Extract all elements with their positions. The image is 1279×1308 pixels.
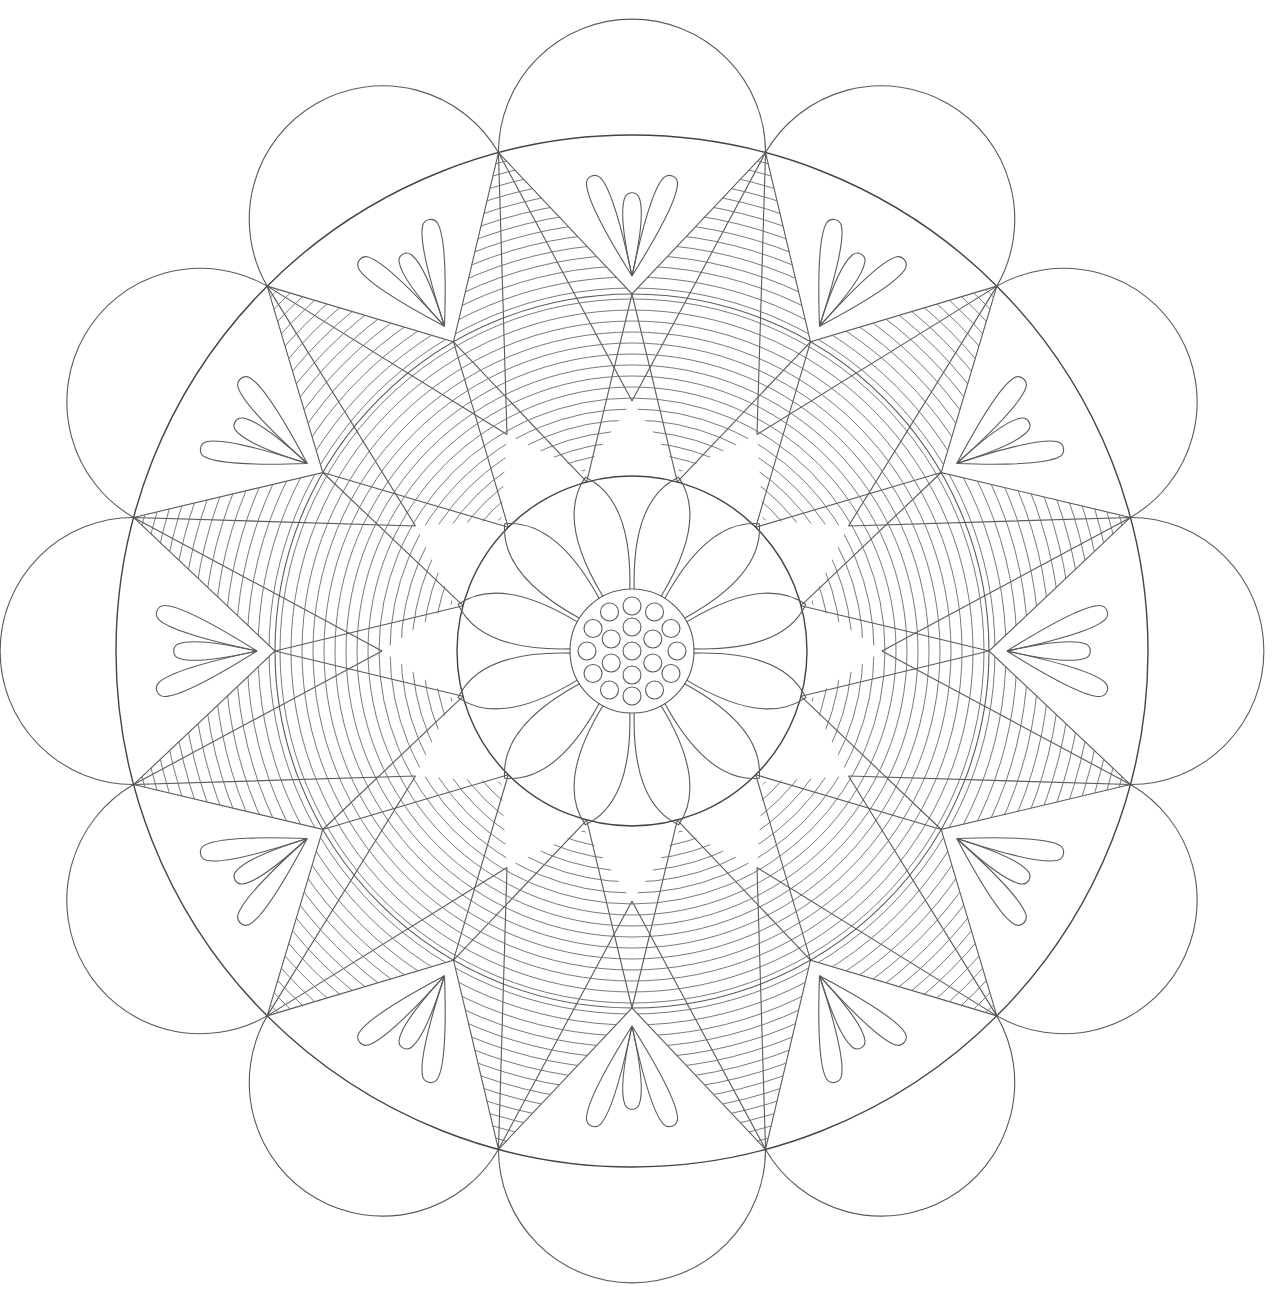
hatch-arc (291, 310, 973, 992)
hatch-arc (159, 178, 1105, 1124)
teardrop-left (819, 219, 842, 326)
hatch-arc (236, 255, 1028, 1047)
hatch-arc (225, 244, 1039, 1058)
hatch-arc (412, 431, 852, 871)
hatch-arc (434, 453, 830, 849)
hatch-arc (412, 431, 852, 871)
teardrop-right (238, 377, 308, 464)
hatch-arc (148, 167, 1116, 1135)
flower-seed-dot (623, 642, 641, 660)
hatch-arc (137, 156, 1127, 1146)
hatch-arc (346, 365, 918, 937)
hatch-arc (412, 431, 852, 871)
hatch-arc (258, 277, 1006, 1025)
hatch-arc (269, 288, 995, 1014)
hatch-arc (137, 156, 1127, 1146)
hatch-arc (324, 343, 940, 959)
hatch-arc (357, 376, 907, 926)
teardrop-center (820, 253, 865, 326)
hatch-arc (324, 343, 940, 959)
hatch-arc (434, 453, 830, 849)
teardrop-center (174, 642, 257, 661)
teardrop-left (422, 976, 445, 1083)
flower-seed-dot (646, 681, 664, 699)
hatch-arc (291, 310, 973, 992)
hatch-arc (324, 343, 940, 959)
hatch-arc (159, 178, 1105, 1124)
hatch-arc (445, 464, 819, 838)
flower-petal (687, 593, 806, 649)
hatch-arc (280, 299, 984, 1003)
outer-triangle (267, 960, 498, 1149)
flower-seed-dot (602, 654, 620, 672)
hatch-arc (335, 354, 929, 948)
hatch-arc (445, 464, 819, 838)
hatch-arc (401, 420, 863, 882)
hatch-arc (203, 222, 1061, 1080)
scallop-arc (67, 785, 267, 1034)
hatch-arc (225, 244, 1039, 1058)
hatch-arc (401, 420, 863, 882)
hatch-arc (368, 387, 896, 915)
hatch-arc (258, 277, 1006, 1025)
hatch-arc (423, 442, 841, 860)
hatch-arc (203, 222, 1061, 1080)
hatch-arc (346, 365, 918, 937)
hatch-arc (434, 453, 830, 849)
scallop-arc (67, 268, 267, 517)
hatch-arc (269, 288, 995, 1014)
hatch-arc (203, 222, 1061, 1080)
scallop-arc (1130, 517, 1263, 784)
scallop-arc (997, 785, 1197, 1034)
hatch-arc (170, 189, 1094, 1113)
hatch-arc (324, 343, 940, 959)
hatch-arc (423, 442, 841, 860)
hatch-arc (225, 244, 1039, 1058)
teardrop-center (820, 976, 865, 1049)
hatch-arc (126, 145, 1138, 1157)
hatch-arc (379, 398, 885, 904)
hatch-arc (269, 288, 995, 1014)
teardrop-left (238, 839, 308, 926)
hatch-arc (225, 244, 1039, 1058)
hatch-arc (170, 189, 1094, 1113)
hatch-arc (401, 420, 863, 882)
hatch-arc (170, 189, 1094, 1113)
flower-petal (458, 653, 577, 709)
hatch-arc (170, 189, 1094, 1113)
hatch-arc (181, 200, 1083, 1102)
star-ray (849, 517, 1131, 651)
hatch-arc (181, 200, 1083, 1102)
teardrop-center (957, 839, 1030, 884)
hatch-arc (346, 365, 918, 937)
flower-petal (665, 523, 760, 618)
hatch-arc (313, 332, 951, 970)
hatch-arc (324, 343, 940, 959)
hatch-arc (203, 222, 1061, 1080)
hatch-arc (379, 398, 885, 904)
teardrop-center (623, 1026, 642, 1109)
hatch-arc (137, 156, 1127, 1146)
hatch-arc (313, 332, 951, 970)
hatch-arc (236, 255, 1028, 1047)
hatch-arc (236, 255, 1028, 1047)
hatch-arc (346, 365, 918, 937)
hatch-arc (203, 222, 1061, 1080)
hatch-arc (247, 266, 1017, 1036)
hatch-arc (346, 365, 918, 937)
hatch-arc (280, 299, 984, 1003)
hatch-arc (236, 255, 1028, 1047)
core-ring (457, 476, 807, 826)
flower-seed-dot (584, 620, 602, 638)
hatch-arc (214, 233, 1050, 1069)
scallop-arc (498, 19, 765, 152)
hatch-arc (225, 244, 1039, 1058)
hatch-arc (137, 156, 1127, 1146)
hatch-arc (423, 442, 841, 860)
hatch-arc (291, 310, 973, 992)
hatch-arc (379, 398, 885, 904)
hatch-arc (137, 156, 1127, 1146)
hatch-arc (148, 167, 1116, 1135)
hatch-arc (423, 442, 841, 860)
hatch-arc (390, 409, 874, 893)
